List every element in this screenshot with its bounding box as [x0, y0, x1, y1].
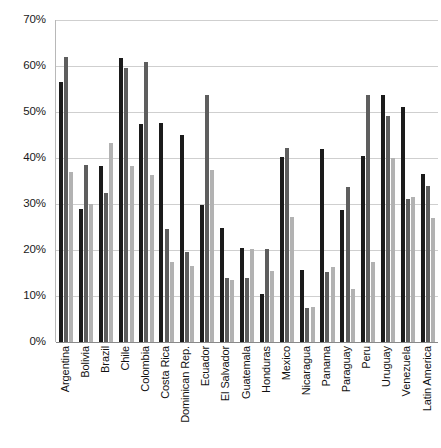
bar-group: [197, 20, 217, 342]
x-axis-tick-label: Honduras: [261, 346, 272, 393]
bar: [426, 186, 430, 342]
y-axis-tick-label: 20%: [23, 244, 46, 256]
bar: [406, 199, 410, 342]
x-axis-tick: Uruguay: [377, 343, 397, 448]
bar-group: [378, 20, 398, 342]
bar-group: [358, 20, 378, 342]
bar: [190, 266, 194, 342]
bar: [144, 62, 148, 342]
x-axis-tick-label: Costa Rica: [160, 346, 171, 399]
x-axis-tick: Latin America: [417, 343, 437, 448]
bar: [69, 172, 73, 342]
bar: [386, 116, 390, 342]
y-axis: 70%60%50%40%30%20%10%0%: [0, 0, 52, 448]
x-axis: ArgentinaBoliviaBrazilChileColombiaCosta…: [55, 343, 437, 448]
bar: [366, 95, 370, 342]
x-axis-tick: Honduras: [256, 343, 276, 448]
x-axis-tick: Panama: [316, 343, 336, 448]
bar: [361, 156, 365, 342]
bar: [285, 148, 289, 342]
bar: [290, 217, 294, 342]
bar: [431, 218, 435, 342]
bar: [391, 158, 395, 342]
x-axis-tick-label: Chile: [120, 346, 131, 371]
x-axis-tick: Paraguay: [337, 343, 357, 448]
y-axis-tick-label: 60%: [23, 60, 46, 72]
bar: [371, 262, 375, 342]
bar-group: [217, 20, 237, 342]
bar-group: [157, 20, 177, 342]
bar-group: [76, 20, 96, 342]
bar: [150, 175, 154, 342]
bar: [84, 165, 88, 342]
bar: [270, 271, 274, 342]
bar-group: [418, 20, 438, 342]
bar: [351, 289, 355, 342]
bars-layer: [56, 20, 438, 342]
x-axis-tick-label: Dominican Rep.: [180, 346, 191, 423]
x-axis-tick-label: Argentina: [60, 346, 71, 392]
bar: [59, 82, 63, 342]
bar: [170, 262, 174, 342]
x-axis-tick-label: Latin America: [422, 346, 433, 411]
x-axis-tick-label: Uruguay: [381, 346, 392, 387]
bar-group: [56, 20, 76, 342]
x-axis-tick: Ecuador: [196, 343, 216, 448]
x-axis-tick: Brazil: [95, 343, 115, 448]
bar: [99, 166, 103, 342]
bar-group: [237, 20, 257, 342]
bar: [119, 58, 123, 342]
bar: [240, 248, 244, 342]
x-axis-tick-label: Panama: [321, 346, 332, 386]
bar-group: [177, 20, 197, 342]
x-axis-tick-label: Paraguay: [341, 346, 352, 392]
x-axis-tick: Dominican Rep.: [176, 343, 196, 448]
bar: [200, 205, 204, 342]
bar-group: [317, 20, 337, 342]
bar: [205, 95, 209, 342]
bar: [79, 209, 83, 342]
bar-group: [338, 20, 358, 342]
bar: [346, 187, 350, 342]
bar: [64, 57, 68, 342]
bar: [225, 278, 229, 342]
bar: [305, 308, 309, 342]
x-axis-tick-label: Venezuela: [401, 346, 412, 396]
bar: [311, 307, 315, 342]
bar-group: [277, 20, 297, 342]
bar: [104, 193, 108, 342]
bar: [210, 170, 214, 343]
x-axis-tick: Peru: [357, 343, 377, 448]
bar: [381, 95, 385, 342]
bar: [331, 267, 335, 342]
bar: [230, 280, 234, 342]
x-axis-tick-label: Brazil: [100, 346, 111, 373]
bar-group: [136, 20, 156, 342]
bar: [165, 229, 169, 342]
bar: [280, 157, 284, 342]
bar: [159, 123, 163, 342]
bar: [180, 135, 184, 342]
y-axis-tick-label: 30%: [23, 198, 46, 210]
bar: [89, 204, 93, 342]
x-axis-tick: Costa Rica: [156, 343, 176, 448]
x-axis-tick-label: Peru: [361, 346, 372, 369]
bar-group: [116, 20, 136, 342]
x-axis-tick: Chile: [115, 343, 135, 448]
x-axis-tick: Colombia: [135, 343, 155, 448]
x-axis-tick: Bolivia: [75, 343, 95, 448]
x-axis-tick: Argentina: [55, 343, 75, 448]
bar: [401, 107, 405, 342]
y-axis-tick-label: 40%: [23, 152, 46, 164]
bar: [139, 124, 143, 343]
bar: [325, 272, 329, 342]
bar: [411, 197, 415, 342]
bar: [245, 278, 249, 342]
x-axis-tick-label: Bolivia: [80, 346, 91, 378]
bar: [109, 143, 113, 342]
bar: [300, 270, 304, 342]
plot-area: [55, 20, 438, 342]
x-axis-tick-label: Guatemala: [241, 346, 252, 399]
x-axis-tick-label: Mexico: [281, 346, 292, 380]
bar: [250, 249, 254, 342]
